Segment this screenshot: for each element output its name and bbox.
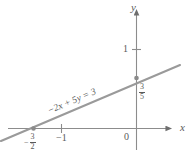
x-intercept-point: [31, 126, 36, 131]
x-axis-label: x: [180, 122, 185, 133]
y-intercept-label: 3 5: [138, 83, 145, 101]
y-intercept-fraction: 3 5: [139, 83, 145, 101]
x-intercept-fraction: 3 2: [30, 133, 36, 151]
origin-label: 0: [124, 132, 129, 142]
x-intercept-numerator: 3: [30, 133, 36, 141]
x-tick-label-neg1: −1: [56, 133, 67, 143]
y-intercept-point: [134, 76, 139, 81]
y-intercept-numerator: 3: [139, 83, 145, 91]
x-intercept-label: − 3 2: [24, 133, 36, 151]
x-intercept-sign: −: [24, 138, 29, 147]
y-tick-label-1: 1: [123, 44, 128, 54]
plotted-line: [1, 65, 180, 141]
y-intercept-denominator: 5: [139, 93, 145, 101]
graph-figure: y x 1 −1 0 3 5 − 3 2 −2x + 5y = 3: [0, 0, 194, 159]
x-intercept-denominator: 2: [30, 143, 36, 151]
y-axis-label: y: [131, 2, 136, 13]
